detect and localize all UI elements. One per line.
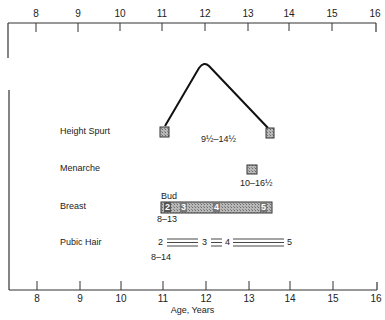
bottom-tick-9: 9: [77, 293, 83, 304]
menarche-range: 10–16½: [240, 178, 273, 188]
height-spurt-range: 9½–14½: [201, 134, 236, 144]
top-tick-11: 11: [157, 8, 167, 19]
top-tick-14: 14: [283, 8, 294, 19]
bottom-tick-12: 12: [200, 293, 211, 304]
top-tick-16: 16: [369, 8, 380, 19]
pubic-hair-label: Pubic Hair: [60, 237, 102, 247]
top-tick-10: 10: [114, 8, 125, 19]
diagram-graphics: [0, 0, 385, 320]
breast-stage-5: 5: [260, 202, 267, 212]
top-tick-13: 13: [242, 8, 253, 19]
bottom-tick-16: 16: [370, 293, 381, 304]
bottom-tick-13: 13: [243, 293, 254, 304]
breast-range: 8–13: [157, 214, 177, 224]
menarche-marker: [247, 165, 257, 174]
top-tick-8: 8: [33, 8, 39, 19]
height-spurt-curve: [165, 64, 268, 128]
bottom-axis-ticks: [37, 281, 333, 290]
frame: [8, 23, 377, 290]
top-tick-9: 9: [75, 8, 81, 19]
top-tick-12: 12: [199, 8, 210, 19]
pubic-hair-stage-5: 5: [287, 237, 292, 247]
bottom-tick-11: 11: [158, 293, 168, 304]
pubic-hair-stage-4: 4: [225, 237, 230, 247]
height-spurt-end-marker: [266, 128, 274, 138]
top-tick-15: 15: [326, 8, 337, 19]
top-axis-ticks: [36, 23, 332, 32]
breast-stage-3: 3: [180, 202, 187, 212]
pubic-hair-stage-3: 3: [202, 237, 207, 247]
breast-stage-4: 4: [213, 202, 220, 212]
bottom-tick-8: 8: [34, 293, 40, 304]
height-spurt-label: Height Spurt: [60, 126, 110, 136]
height-spurt-start-marker: [160, 127, 169, 137]
breast-bud-label: Bud: [161, 191, 177, 201]
pubic-hair-stage-2: 2: [158, 237, 163, 247]
bottom-tick-15: 15: [327, 293, 338, 304]
bottom-tick-10: 10: [115, 293, 126, 304]
breast-stage-2: 2: [164, 202, 171, 212]
pubic-hair-range: 8–14: [151, 252, 171, 262]
x-axis-label: Age, Years: [0, 305, 385, 315]
breast-label: Breast: [60, 201, 86, 211]
bottom-tick-14: 14: [284, 293, 295, 304]
menarche-label: Menarche: [60, 163, 100, 173]
